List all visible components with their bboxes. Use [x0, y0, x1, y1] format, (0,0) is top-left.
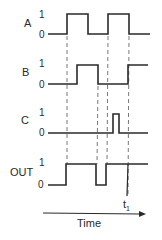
- signal-a-waveform: [48, 14, 150, 34]
- signal-out-low-label: 0: [38, 179, 44, 190]
- signal-b-waveform: [48, 65, 148, 84]
- signal-b-label: B: [22, 66, 29, 78]
- arrow-right-icon: [139, 211, 146, 217]
- signal-a: A 1 0: [24, 9, 150, 40]
- signal-b-low-label: 0: [39, 79, 45, 90]
- signal-out-high-label: 1: [39, 157, 45, 168]
- signal-c-high-label: 1: [39, 107, 45, 118]
- time-axis-label: Time: [77, 217, 101, 229]
- signal-a-label: A: [24, 17, 32, 29]
- time-axis: Time: [43, 211, 146, 229]
- signal-c: C 1 0: [21, 107, 148, 138]
- guide-line-3: [107, 36, 108, 164]
- signal-out: OUT 1 0: [10, 157, 148, 196]
- guide-line-2: [97, 86, 98, 164]
- t1-label: t1: [123, 198, 130, 212]
- signal-c-low-label: 0: [39, 127, 45, 138]
- signal-a-high-label: 1: [39, 9, 45, 20]
- time-axis-line: [43, 213, 141, 214]
- signal-out-label: OUT: [10, 166, 34, 178]
- timing-diagram: A 1 0 B 1 0 C 1 0 OUT 1 0 t1 Time: [0, 0, 162, 240]
- signal-out-waveform: [48, 164, 148, 185]
- signal-b-high-label: 1: [39, 58, 45, 69]
- signal-a-low-label: 0: [39, 29, 45, 40]
- signal-c-label: C: [21, 114, 29, 126]
